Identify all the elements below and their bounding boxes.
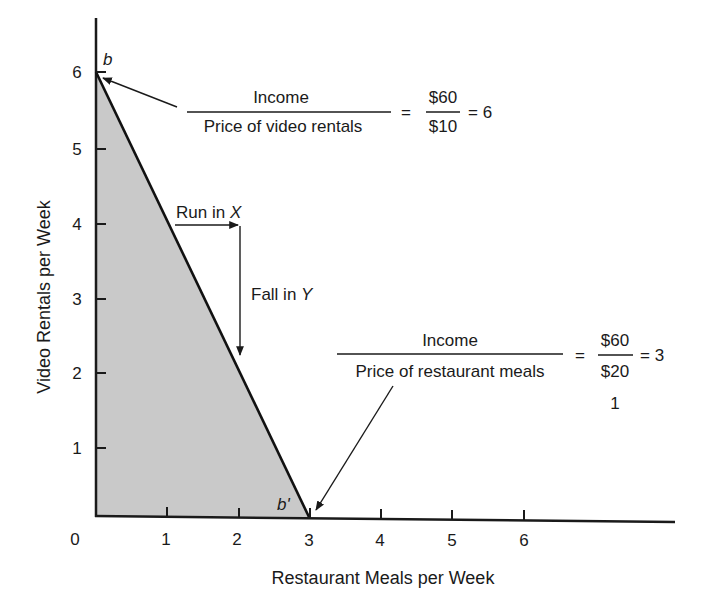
- svg-text:Price of restaurant meals: Price of restaurant meals: [356, 362, 545, 381]
- svg-text:3: 3: [304, 531, 313, 550]
- run-in-x-label: Run in X: [176, 203, 242, 222]
- svg-text:Run in X: Run in X: [176, 203, 242, 222]
- svg-text:4: 4: [375, 531, 384, 550]
- svg-text:$10: $10: [429, 117, 457, 136]
- svg-text:0: 0: [70, 530, 79, 549]
- svg-text:6: 6: [72, 63, 81, 82]
- svg-text:Price of video rentals: Price of video rentals: [204, 117, 363, 136]
- svg-text:= 6: = 6: [468, 103, 492, 122]
- y-axis-title: Video Rentals per Week: [34, 199, 54, 393]
- svg-text:$20: $20: [601, 362, 629, 381]
- x-axis: [95, 516, 675, 522]
- svg-text:5: 5: [72, 140, 81, 159]
- svg-text:4: 4: [72, 215, 81, 234]
- top-annotation-arrow: [103, 78, 177, 107]
- svg-text:5: 5: [447, 531, 456, 550]
- bottom-fraction-annotation: Income Price of restaurant meals = $60 $…: [337, 331, 664, 413]
- y-tick-labels: 6 5 4 3 2 1: [72, 63, 81, 458]
- svg-text:= 3: = 3: [640, 346, 664, 365]
- svg-text:3: 3: [72, 290, 81, 309]
- svg-text:Fall in Y: Fall in Y: [251, 285, 314, 304]
- x-axis-title: Restaurant Meals per Week: [272, 568, 496, 588]
- x-tick-labels: 0 1 2 3 4 5 6: [70, 530, 528, 550]
- bottom-annotation-arrow: [316, 386, 393, 510]
- svg-text:1: 1: [72, 439, 81, 458]
- svg-text:2: 2: [232, 530, 241, 549]
- point-label-b: b: [103, 50, 112, 69]
- svg-text:$60: $60: [601, 331, 629, 350]
- svg-text:$60: $60: [429, 88, 457, 107]
- svg-text:1: 1: [610, 394, 619, 413]
- svg-text:Income: Income: [422, 331, 478, 350]
- top-fraction-annotation: Income Price of video rentals = $60 $10 …: [187, 88, 492, 136]
- svg-text:1: 1: [161, 530, 170, 549]
- svg-text:6: 6: [519, 531, 528, 550]
- fall-in-y-label: Fall in Y: [251, 285, 314, 304]
- svg-text:=: =: [401, 103, 411, 122]
- svg-text:Income: Income: [253, 88, 309, 107]
- point-label-b-prime: b': [277, 495, 290, 514]
- svg-text:=: =: [575, 346, 585, 365]
- budget-line-chart: 6 5 4 3 2 1 0 1 2 3 4 5 6 Restaurant Mea…: [0, 0, 703, 613]
- svg-text:2: 2: [72, 364, 81, 383]
